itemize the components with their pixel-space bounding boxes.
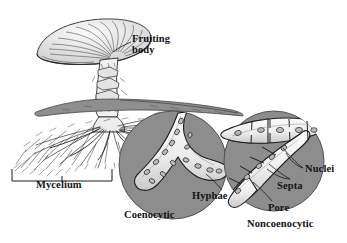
- noncoenocytic-inset: [221, 111, 324, 211]
- label-coenocytic: Coenocytic: [124, 209, 175, 220]
- label-noncoenocytic: Noncoenocytic: [247, 218, 314, 229]
- label-septa: Septa: [277, 180, 303, 191]
- label-nuclei: Nuclei: [305, 163, 334, 174]
- coenocytic-inset: [119, 111, 228, 219]
- label-fruiting-body-line1: Fruiting: [132, 33, 170, 44]
- fungal-structure-figure: Fruiting body Mycelium Coenocytic Hyphae…: [0, 0, 347, 243]
- label-fruiting-body-line2: body: [132, 44, 170, 55]
- label-hyphae: Hyphae: [192, 190, 228, 201]
- label-fruiting-body: Fruiting body: [132, 33, 170, 56]
- label-pore: Pore: [268, 202, 289, 213]
- soil-surface: [35, 99, 243, 116]
- mushroom-stalk: [92, 58, 127, 132]
- figure-illustration: [0, 0, 347, 243]
- label-mycelium: Mycelium: [36, 179, 82, 190]
